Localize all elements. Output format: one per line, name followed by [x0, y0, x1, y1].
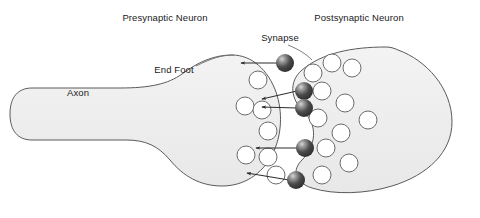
- neurotransmitter: [295, 99, 313, 117]
- receptor: [332, 124, 350, 142]
- receptor: [340, 154, 358, 172]
- vesicle: [267, 166, 285, 184]
- neurotransmitter: [295, 82, 313, 100]
- neurotransmitter: [296, 139, 314, 157]
- vesicle: [249, 71, 267, 89]
- neurotransmitter: [276, 54, 294, 72]
- receptor: [323, 54, 341, 72]
- receptor: [313, 82, 331, 100]
- label-postsynaptic-neuron: Postsynaptic Neuron: [314, 12, 404, 23]
- receptor: [336, 94, 354, 112]
- receptor: [343, 59, 361, 77]
- label-synapse: Synapse: [261, 32, 299, 43]
- synapse-diagram: Presynaptic Neuron Postsynaptic Neuron S…: [0, 0, 480, 218]
- label-end-foot: End Foot: [154, 64, 194, 75]
- label-axon: Axon: [67, 87, 89, 98]
- receptor: [317, 139, 335, 157]
- vesicle: [259, 122, 277, 140]
- label-presynaptic-neuron: Presynaptic Neuron: [122, 12, 207, 23]
- vesicle: [236, 97, 254, 115]
- presynaptic-neuron: [10, 55, 281, 186]
- receptor: [359, 111, 377, 129]
- receptor: [304, 64, 322, 82]
- vesicle: [237, 146, 255, 164]
- diagram-canvas: Presynaptic Neuron Postsynaptic Neuron S…: [0, 0, 480, 218]
- vesicle: [253, 101, 271, 119]
- presynaptic-cell-body: [10, 55, 281, 186]
- vesicle: [259, 148, 277, 166]
- neurotransmitter: [287, 171, 305, 189]
- receptor: [313, 166, 331, 184]
